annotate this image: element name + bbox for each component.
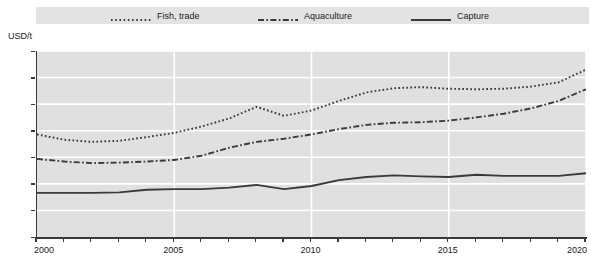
x-axis-line bbox=[36, 237, 587, 239]
legend-line-dotted-icon bbox=[111, 15, 151, 25]
chart-figure: Fish, trade Aquaculture Capture USD/t bbox=[0, 0, 591, 269]
y-axis-unit-label: USD/t bbox=[8, 31, 32, 41]
x-tick-label-2005: 2005 bbox=[163, 245, 183, 255]
y-tick-mark bbox=[31, 77, 35, 79]
y-tick-mark bbox=[31, 51, 35, 53]
y-tick-mark bbox=[31, 157, 35, 159]
series-line-aquaculture bbox=[37, 89, 586, 163]
legend-item-capture: Capture bbox=[411, 7, 489, 24]
x-tick-label-2015: 2015 bbox=[438, 245, 458, 255]
x-tick-label-2020: 2020 bbox=[567, 245, 587, 255]
chart-legend: Fish, trade Aquaculture Capture bbox=[36, 7, 589, 24]
y-tick-mark bbox=[31, 104, 35, 106]
legend-swatch-capture bbox=[411, 11, 451, 21]
legend-swatch-fish-trade bbox=[111, 11, 151, 21]
data-series-group bbox=[37, 51, 586, 237]
legend-item-fish-trade: Fish, trade bbox=[111, 7, 200, 24]
legend-label-fish-trade: Fish, trade bbox=[157, 11, 200, 21]
y-tick-mark bbox=[31, 183, 35, 185]
plot-inner bbox=[37, 51, 586, 237]
x-tick-label-2000: 2000 bbox=[34, 245, 54, 255]
legend-line-dashdot-icon bbox=[258, 15, 298, 25]
series-line-capture bbox=[37, 173, 586, 193]
legend-line-solid-icon bbox=[411, 15, 451, 25]
y-tick-mark bbox=[31, 130, 35, 132]
series-line-fish-trade bbox=[37, 70, 586, 142]
legend-swatch-aquaculture bbox=[258, 11, 298, 21]
legend-item-aquaculture: Aquaculture bbox=[258, 7, 352, 24]
y-tick-mark bbox=[31, 237, 35, 239]
legend-label-aquaculture: Aquaculture bbox=[304, 11, 352, 21]
legend-label-capture: Capture bbox=[457, 11, 489, 21]
plot-area bbox=[36, 51, 586, 238]
y-tick-mark bbox=[31, 210, 35, 212]
x-tick-label-2010: 2010 bbox=[300, 245, 320, 255]
